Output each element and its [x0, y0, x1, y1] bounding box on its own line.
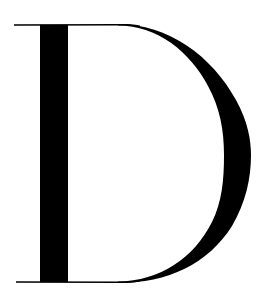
letter-d-graphic: D [0, 0, 263, 306]
letter-d-icon [0, 0, 263, 306]
letter-d-stem [40, 25, 68, 282]
letter-d-bowl [118, 24, 251, 283]
